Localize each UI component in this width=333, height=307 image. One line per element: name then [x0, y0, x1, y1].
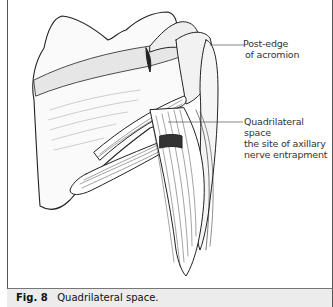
- figure-caption-bar: Fig. 8 Quadrilateral space.: [7, 289, 333, 307]
- triceps-long-head: [150, 108, 204, 276]
- annotation-line: Quadrilateral space: [244, 116, 333, 138]
- figure-number: Fig. 8: [16, 292, 48, 303]
- annotation-line: nerve entrapment: [244, 149, 333, 160]
- quadrilateral-space-marker: [160, 135, 182, 149]
- annotation-line: Post-edge: [243, 38, 299, 49]
- annotation-post-edge-acromion: Post-edge of acromion: [243, 38, 299, 60]
- annotation-line: the site of axillary: [244, 138, 333, 149]
- figure-caption: Fig. 8 Quadrilateral space.: [16, 292, 158, 303]
- figure-caption-text: Quadrilateral space.: [57, 292, 158, 303]
- annotation-line: of acromion: [243, 49, 299, 60]
- annotation-quadrilateral-space: Quadrilateral space the site of axillary…: [244, 116, 333, 160]
